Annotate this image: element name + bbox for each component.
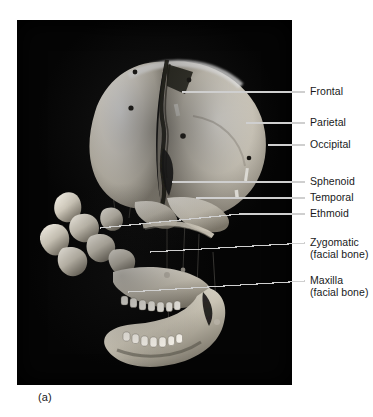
label-maxilla-text: Maxilla: [310, 274, 343, 286]
skull-photograph: [17, 20, 292, 385]
label-ethmoid: Ethmoid: [310, 208, 349, 220]
label-temporal: Temporal: [310, 192, 354, 204]
label-sphenoid: Sphenoid: [310, 176, 355, 188]
label-zygomatic-subtext: (facial bone): [310, 249, 368, 261]
label-occipital-text: Occipital: [310, 138, 351, 150]
label-parietal-text: Parietal: [310, 116, 346, 128]
label-parietal: Parietal: [310, 117, 346, 129]
anatomy-figure: Frontal Parietal Occipital Sphenoid Temp…: [0, 0, 373, 417]
label-sphenoid-text: Sphenoid: [310, 175, 355, 187]
label-zygomatic: Zygomatic (facial bone): [310, 237, 368, 260]
label-ethmoid-text: Ethmoid: [310, 207, 349, 219]
label-frontal-text: Frontal: [310, 85, 343, 97]
label-occipital: Occipital: [310, 139, 351, 151]
label-temporal-text: Temporal: [310, 191, 354, 203]
label-maxilla: Maxilla (facial bone): [310, 275, 368, 298]
label-zygomatic-text: Zygomatic: [310, 236, 359, 248]
label-frontal: Frontal: [310, 86, 343, 98]
label-maxilla-subtext: (facial bone): [310, 287, 368, 299]
figure-caption: (a): [38, 391, 52, 403]
photo-panel: [17, 20, 292, 385]
